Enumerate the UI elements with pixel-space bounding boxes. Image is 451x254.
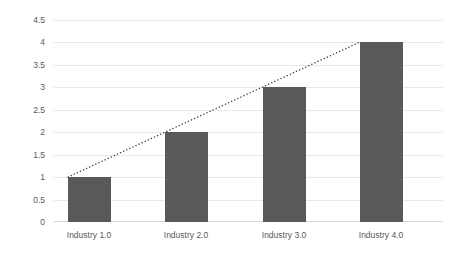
y-tick-label: 2.5 <box>33 105 45 115</box>
bar-industry-3 <box>263 87 306 222</box>
x-axis: Industry 1.0 Industry 2.0 Industry 3.0 I… <box>54 229 443 245</box>
plot-area <box>54 20 443 222</box>
y-tick-label: 2 <box>40 127 45 137</box>
y-tick-label: 0 <box>40 217 45 227</box>
bar-industry-2 <box>165 132 208 222</box>
bar-industry-4 <box>360 42 403 222</box>
y-tick-label: 0.5 <box>33 195 45 205</box>
y-tick-label: 1 <box>40 172 45 182</box>
y-tick-label: 4 <box>40 37 45 47</box>
x-tick-label-industry-4: Industry 4.0 <box>321 229 441 241</box>
y-tick-label: 3 <box>40 82 45 92</box>
y-axis: 4.5 4 3.5 3 2.5 2 1.5 1 0.5 0 <box>0 0 48 254</box>
y-tick-label: 3.5 <box>33 60 45 70</box>
bar-chart: 4.5 4 3.5 3 2.5 2 1.5 1 0.5 0 Indus <box>0 0 451 254</box>
y-tick-label: 4.5 <box>33 15 45 25</box>
bar-industry-1 <box>68 177 111 222</box>
gridline-4-5 <box>54 20 443 21</box>
y-tick-label: 1.5 <box>33 150 45 160</box>
